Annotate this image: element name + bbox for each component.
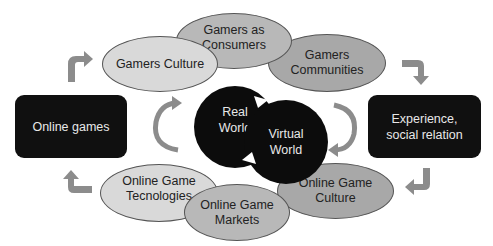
world-arrows: [0, 0, 493, 246]
world-arrow-top-icon: [254, 96, 268, 108]
world-arrow-bottom-icon: [242, 152, 256, 164]
